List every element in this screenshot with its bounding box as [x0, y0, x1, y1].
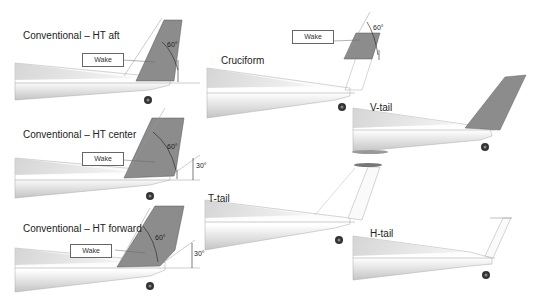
angle-label: 30° [196, 162, 207, 169]
wake-label: Wake [82, 152, 124, 166]
panel-title-cruciform: Cruciform [221, 55, 264, 66]
panel-title-conventional-ht-forward: Conventional – HT forward [23, 223, 142, 234]
angle-label: 60° [167, 143, 178, 150]
panel-t-tail [205, 150, 388, 250]
panel-title-conventional-ht-aft: Conventional – HT aft [23, 30, 120, 41]
panel-v-tail [353, 75, 526, 152]
panel-title-t-tail: T-tail [208, 193, 230, 204]
angle-label: 60° [373, 24, 384, 31]
angle-label: 60° [167, 41, 178, 48]
angle-label: 60° [155, 234, 166, 241]
panel-title-v-tail: V-tail [370, 102, 392, 113]
panel-title-h-tail: H-tail [370, 228, 393, 239]
wake-label: Wake [292, 30, 334, 44]
angle-label: 30° [194, 250, 205, 257]
wake-label: Wake [70, 244, 112, 258]
wake-label: Wake [82, 53, 124, 67]
panel-title-conventional-ht-center: Conventional – HT center [23, 129, 136, 140]
